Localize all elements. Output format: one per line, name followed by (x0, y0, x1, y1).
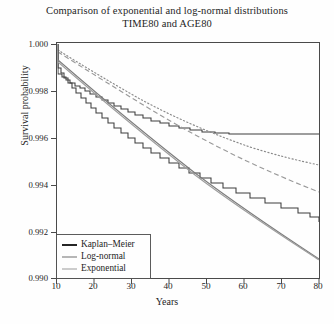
legend-label-exponential[interactable]: Exponential (81, 263, 126, 273)
curve-km-time80 (58, 44, 319, 134)
plot-area (0, 0, 334, 324)
curve-km-age80 (58, 44, 319, 222)
curve-lognormal-time80 (58, 50, 319, 165)
legend-label-log-normal[interactable]: Log-normal (81, 251, 125, 261)
curves-group (58, 44, 319, 260)
legend-label-kaplan-meier[interactable]: Kaplan–Meier (81, 239, 135, 249)
curve-exponential-age80 (58, 62, 319, 260)
curve-lognormal-age80 (58, 60, 319, 259)
figure-container: Comparison of exponential and log-normal… (0, 0, 334, 324)
